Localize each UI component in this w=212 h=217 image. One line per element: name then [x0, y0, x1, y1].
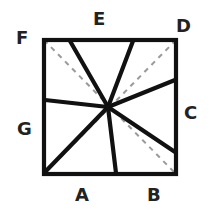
- region-label-e: E: [93, 10, 105, 28]
- region-label-f: F: [16, 29, 28, 47]
- ray-to-top-left: [70, 41, 108, 107]
- region-label-b: B: [147, 186, 161, 204]
- ray-to-right-lower: [108, 107, 175, 152]
- ray-to-bottom: [108, 107, 116, 173]
- region-label-c: C: [184, 104, 197, 122]
- center-point: [106, 105, 111, 110]
- region-label-d: D: [176, 17, 191, 35]
- region-label-g: G: [17, 120, 32, 138]
- ray-to-bottom-left: [45, 107, 108, 172]
- ray-to-left: [45, 100, 108, 107]
- region-label-a: A: [75, 186, 89, 204]
- figure-container: A B C D E F G: [0, 0, 212, 217]
